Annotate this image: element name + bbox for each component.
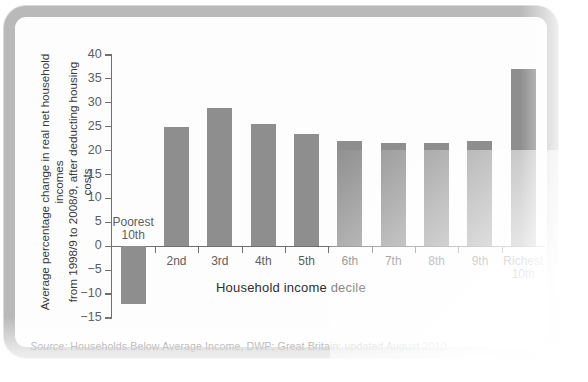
x-tick bbox=[285, 246, 286, 253]
bar bbox=[207, 108, 232, 247]
y-tick bbox=[105, 246, 112, 247]
y-axis-title-text: Average percentage change in real net ho… bbox=[38, 48, 94, 316]
y-tick bbox=[105, 293, 112, 294]
y-tick bbox=[105, 198, 112, 199]
x-axis-label: 7th bbox=[372, 255, 415, 268]
y-tick bbox=[105, 78, 112, 79]
source-label: Source: bbox=[30, 340, 67, 352]
bar bbox=[511, 69, 536, 246]
x-tick bbox=[372, 246, 373, 253]
source-caption: Source: Households Below Average Income,… bbox=[30, 340, 447, 352]
x-axis-label: Poorest 10th bbox=[112, 216, 155, 242]
x-axis-label: 6th bbox=[328, 255, 371, 268]
x-axis-label: 3rd bbox=[198, 255, 241, 268]
x-axis-label: 5th bbox=[285, 255, 328, 268]
bar bbox=[121, 246, 146, 303]
y-tick bbox=[105, 54, 112, 55]
x-tick bbox=[155, 246, 156, 253]
bar bbox=[424, 143, 449, 246]
x-axis-label: 9th bbox=[458, 255, 501, 268]
x-tick bbox=[242, 246, 243, 253]
x-axis-label: 2nd bbox=[155, 255, 198, 268]
x-axis-label: 8th bbox=[415, 255, 458, 268]
x-tick bbox=[415, 246, 416, 253]
x-tick bbox=[198, 246, 199, 253]
bar bbox=[294, 134, 319, 246]
x-axis-title: Household income decile bbox=[216, 280, 366, 295]
x-tick bbox=[458, 246, 459, 253]
bar-chart: 4035302520151050−5−10−15 Poorest 10th2nd… bbox=[0, 0, 588, 382]
y-tick bbox=[105, 317, 112, 318]
bar bbox=[467, 141, 492, 246]
y-tick bbox=[105, 270, 112, 271]
scanned-page: 4035302520151050−5−10−15 Poorest 10th2nd… bbox=[0, 0, 588, 382]
bar bbox=[337, 141, 362, 246]
x-axis-label: 4th bbox=[242, 255, 285, 268]
source-text: Households Below Average Income, DWP; Gr… bbox=[70, 340, 446, 352]
y-tick bbox=[105, 102, 112, 103]
bar bbox=[164, 127, 189, 247]
y-axis-title: Average percentage change in real net ho… bbox=[38, 0, 66, 48]
y-axis-line bbox=[111, 55, 112, 319]
bar bbox=[251, 124, 276, 246]
x-axis-label: Richest 10th bbox=[502, 255, 545, 281]
x-tick bbox=[502, 246, 503, 253]
y-tick bbox=[105, 126, 112, 127]
x-tick bbox=[328, 246, 329, 253]
y-tick bbox=[105, 150, 112, 151]
y-tick bbox=[105, 174, 112, 175]
bar bbox=[381, 143, 406, 246]
